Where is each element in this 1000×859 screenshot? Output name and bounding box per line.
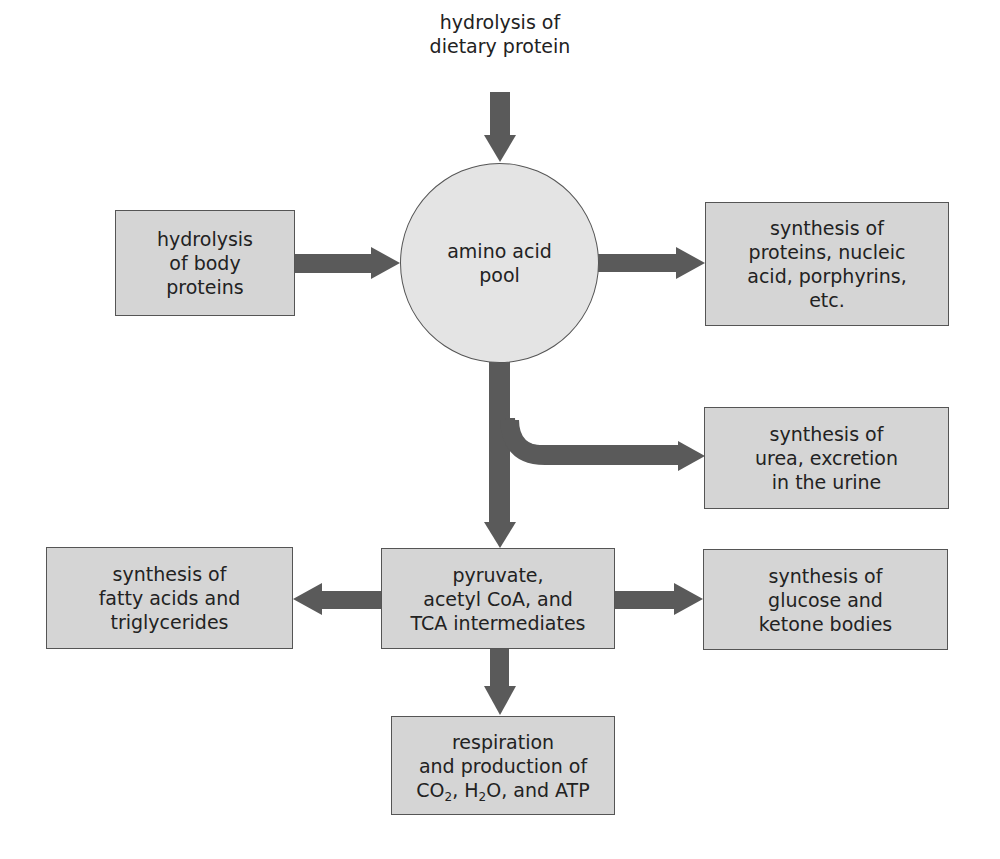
- box-line: synthesis of: [770, 216, 884, 240]
- amino-acid-metabolism-diagram: hydrolysis of dietary protein hydrolysis…: [0, 0, 1000, 859]
- box-line: hydrolysis: [157, 227, 253, 251]
- amino-acid-pool-circle: amino acid pool: [400, 163, 599, 363]
- pool-line: pool: [479, 263, 520, 287]
- box-respiration: respiration and production of CO2, H2O, …: [391, 716, 615, 815]
- box-line: fatty acids and: [99, 586, 241, 610]
- box-line: synthesis of: [769, 564, 883, 588]
- arrow-pool-to-synthesis-proteins: [598, 247, 705, 279]
- formula-h: , H: [452, 779, 478, 801]
- arrow-intermediates-to-fatty-acids: [293, 583, 382, 615]
- box-line: and production of: [419, 754, 587, 778]
- label-hydrolysis-dietary-protein: hydrolysis of dietary protein: [400, 10, 600, 58]
- arrow-pool-to-urea: [500, 418, 705, 471]
- box-urea-synthesis: synthesis of urea, excretion in the urin…: [704, 407, 949, 509]
- formula-co: CO: [416, 779, 444, 801]
- formula-end: O, and ATP: [486, 779, 589, 801]
- box-line: acid, porphyrins,: [747, 264, 906, 288]
- box-fatty-acids-synthesis: synthesis of fatty acids and triglycerid…: [46, 547, 293, 649]
- box-line: etc.: [809, 288, 845, 312]
- box-pyruvate-intermediates: pyruvate, acetyl CoA, and TCA intermedia…: [381, 548, 615, 649]
- box-line: glucose and: [768, 588, 883, 612]
- arrow-intermediates-to-respiration: [484, 648, 516, 715]
- pool-line: amino acid: [447, 239, 552, 263]
- box-line: of body: [169, 251, 240, 275]
- box-line: TCA intermediates: [411, 611, 586, 635]
- box-line: synthesis of: [113, 562, 227, 586]
- box-line: triglycerides: [110, 610, 228, 634]
- arrow-intermediates-to-glucose: [614, 583, 703, 615]
- box-line: pyruvate,: [452, 563, 543, 587]
- box-line-formula: CO2, H2O, and ATP: [416, 778, 589, 802]
- arrow-body-proteins-to-pool: [295, 247, 400, 279]
- box-line: acetyl CoA, and: [423, 587, 573, 611]
- arrow-pool-to-intermediates: [484, 362, 516, 548]
- box-line: proteins, nucleic: [749, 240, 906, 264]
- box-hydrolysis-body-proteins: hydrolysis of body proteins: [115, 210, 295, 316]
- box-line: ketone bodies: [759, 612, 892, 636]
- box-line: in the urine: [772, 470, 881, 494]
- arrow-dietary-to-pool: [484, 92, 516, 162]
- box-line: urea, excretion: [755, 446, 898, 470]
- label-line: dietary protein: [430, 34, 571, 58]
- box-line: synthesis of: [770, 422, 884, 446]
- box-synthesis-proteins: synthesis of proteins, nucleic acid, por…: [705, 202, 949, 326]
- label-line: hydrolysis of: [440, 10, 560, 34]
- box-line: respiration: [452, 730, 554, 754]
- box-line: proteins: [166, 275, 243, 299]
- box-glucose-ketone-synthesis: synthesis of glucose and ketone bodies: [703, 549, 948, 650]
